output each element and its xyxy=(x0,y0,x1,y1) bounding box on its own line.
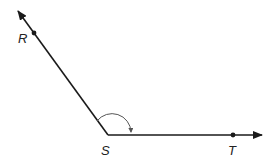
label-r: R xyxy=(18,31,27,46)
ray-sr xyxy=(18,11,108,135)
point-t xyxy=(231,133,236,138)
angle-arc xyxy=(97,114,131,132)
label-t: T xyxy=(228,143,237,158)
point-r xyxy=(32,31,37,36)
angle-diagram: R S T xyxy=(0,0,273,166)
label-s: S xyxy=(101,143,110,158)
